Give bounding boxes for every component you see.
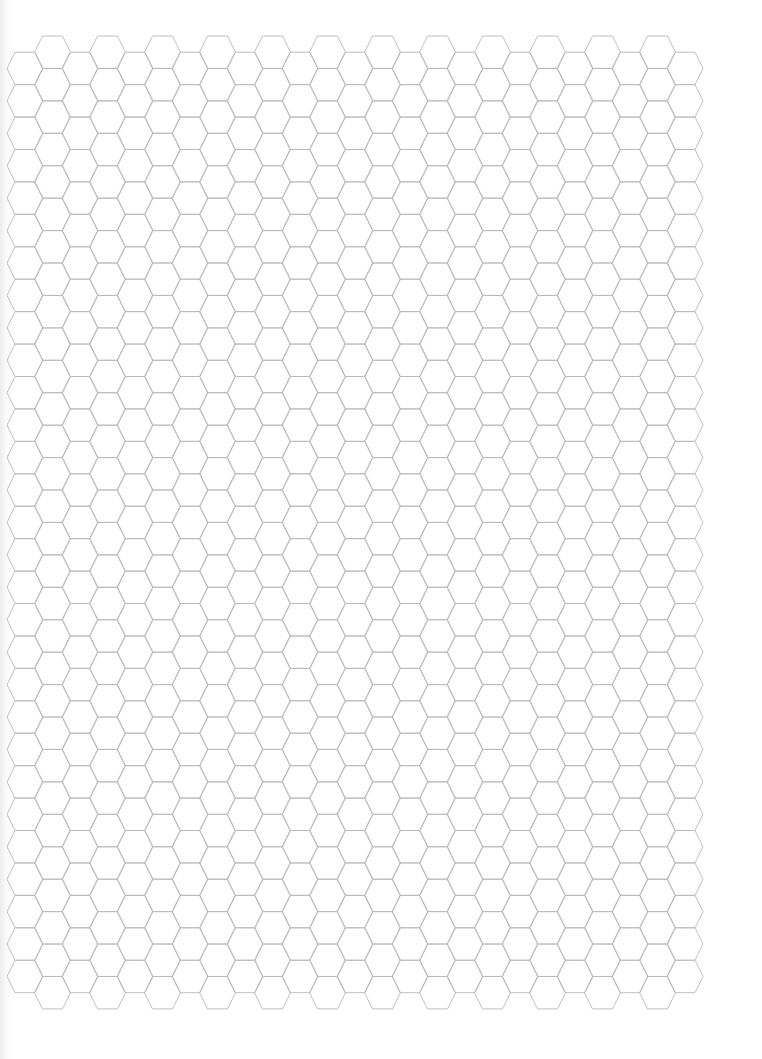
hex-grid: [0, 0, 762, 1059]
hex-lines: [7, 36, 703, 1009]
hex-cells: [7, 36, 703, 1009]
graph-paper-page: [0, 0, 762, 1059]
